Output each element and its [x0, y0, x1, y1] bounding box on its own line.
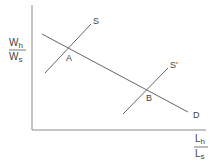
- label-s: S: [93, 16, 99, 26]
- demand-curve-d: [42, 34, 188, 112]
- label-d: D: [193, 110, 200, 120]
- x-label-numerator-sub: h: [201, 137, 205, 146]
- x-label-denominator-sub: s: [201, 152, 205, 161]
- svg-text:Lh: Lh: [195, 133, 205, 146]
- point-b-label: B: [146, 93, 152, 103]
- y-label-numerator-sub: h: [18, 41, 22, 50]
- svg-text:Wh: Wh: [9, 37, 23, 50]
- label-s-prime: S': [170, 60, 178, 70]
- y-label-denominator-sub: s: [18, 55, 22, 64]
- supply-curve-s: [45, 24, 91, 73]
- supply-curve-s-prime: [123, 68, 168, 114]
- supply-demand-diagram: Wh Ws Lh Ls S S' D A B: [0, 0, 218, 164]
- y-axis-label: Wh Ws: [9, 37, 26, 64]
- svg-text:Ls: Ls: [195, 148, 205, 161]
- point-a-label: A: [66, 53, 72, 63]
- svg-text:Ws: Ws: [9, 51, 22, 64]
- x-axis-label: Lh Ls: [194, 133, 208, 161]
